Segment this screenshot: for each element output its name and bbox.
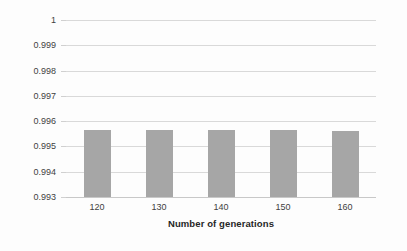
bar (146, 130, 173, 197)
y-axis-tick-label: 0.994 (20, 167, 56, 177)
bar-chart: System reliability 0.9930.9940.9950.9960… (0, 0, 407, 251)
x-axis-tick-label: 160 (325, 201, 365, 213)
y-axis-tick-mark (61, 121, 66, 122)
x-axis-title: Number of generations (66, 218, 376, 229)
y-axis-tick-label: 0.995 (20, 141, 56, 151)
y-axis-tick-label: 0.996 (20, 116, 56, 126)
bar (332, 131, 359, 198)
bar (208, 130, 235, 197)
y-axis-tick-mark (61, 96, 66, 97)
y-axis-tick-mark (61, 197, 66, 198)
gridline (66, 71, 376, 72)
gridline (66, 96, 376, 97)
bar (270, 130, 297, 197)
y-axis-tick-label: 0.998 (20, 66, 56, 76)
y-axis-tick-mark (61, 172, 66, 173)
y-axis-tick-mark (61, 146, 66, 147)
y-axis-tick-mark (61, 20, 66, 21)
y-axis-tick-label: 0.993 (20, 192, 56, 202)
bar (84, 130, 111, 197)
y-axis-tick-label: 0.997 (20, 91, 56, 101)
x-axis-tick-label: 130 (139, 201, 179, 213)
x-axis-line (61, 197, 376, 198)
y-axis-tick-label: 1 (20, 15, 56, 25)
x-axis-tick-labels: 120130140150160 (66, 201, 376, 215)
x-axis-tick-label: 150 (263, 201, 303, 213)
y-axis-tick-label: 0.999 (20, 40, 56, 50)
gridline (66, 20, 376, 21)
gridline (66, 121, 376, 122)
x-axis-tick-label: 140 (201, 201, 241, 213)
plot-area (66, 20, 376, 197)
y-axis-tick-mark (61, 71, 66, 72)
y-axis-tick-mark (61, 45, 66, 46)
x-axis-tick-label: 120 (77, 201, 117, 213)
gridline (66, 45, 376, 46)
y-axis-tick-labels: 0.9930.9940.9950.9960.9970.9980.9991 (20, 12, 56, 202)
